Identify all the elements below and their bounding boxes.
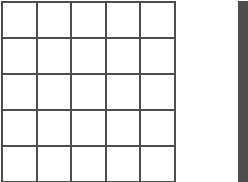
grid-cell[interactable] xyxy=(2,110,37,146)
grid-cell[interactable] xyxy=(106,146,141,182)
grid-cell[interactable] xyxy=(2,38,37,74)
grid-cell[interactable] xyxy=(247,74,248,110)
grid-cell[interactable] xyxy=(247,110,248,146)
grid-cell[interactable] xyxy=(106,2,141,38)
table-row[interactable] xyxy=(239,110,248,146)
screenshot-canvas xyxy=(0,0,248,182)
grid-cell[interactable] xyxy=(37,146,72,182)
grid-cell[interactable] xyxy=(247,38,248,74)
grid-cell[interactable] xyxy=(37,110,72,146)
table-row[interactable] xyxy=(239,38,248,74)
grid-cell[interactable] xyxy=(37,2,72,38)
grid-cell[interactable] xyxy=(2,2,37,38)
grid-cell[interactable] xyxy=(2,74,37,110)
secondary-grid[interactable] xyxy=(238,1,248,182)
table-row[interactable] xyxy=(2,110,175,146)
grid-cell[interactable] xyxy=(2,146,37,182)
table-row[interactable] xyxy=(2,2,175,38)
grid-cell[interactable] xyxy=(140,110,175,146)
table-row[interactable] xyxy=(239,146,248,182)
grid-cell[interactable] xyxy=(140,146,175,182)
grid-cell[interactable] xyxy=(247,2,248,38)
grid-cell[interactable] xyxy=(37,74,72,110)
grid-cell[interactable] xyxy=(140,74,175,110)
grid-cell[interactable] xyxy=(140,2,175,38)
grid-cell[interactable] xyxy=(140,38,175,74)
grid-cell[interactable] xyxy=(106,74,141,110)
table-row[interactable] xyxy=(2,146,175,182)
table-row[interactable] xyxy=(2,74,175,110)
primary-grid-body xyxy=(2,2,175,182)
grid-cell[interactable] xyxy=(71,2,106,38)
grid-cell[interactable] xyxy=(71,146,106,182)
grid-cell[interactable] xyxy=(71,74,106,110)
table-row[interactable] xyxy=(2,38,175,74)
grid-cell[interactable] xyxy=(247,146,248,182)
grid-cell[interactable] xyxy=(71,110,106,146)
grid-cell[interactable] xyxy=(106,38,141,74)
grid-cell[interactable] xyxy=(37,38,72,74)
grid-cell[interactable] xyxy=(71,38,106,74)
grid-cell[interactable] xyxy=(106,110,141,146)
secondary-grid-body xyxy=(239,2,248,182)
table-row[interactable] xyxy=(239,2,248,38)
primary-grid[interactable] xyxy=(1,1,176,182)
table-row[interactable] xyxy=(239,74,248,110)
